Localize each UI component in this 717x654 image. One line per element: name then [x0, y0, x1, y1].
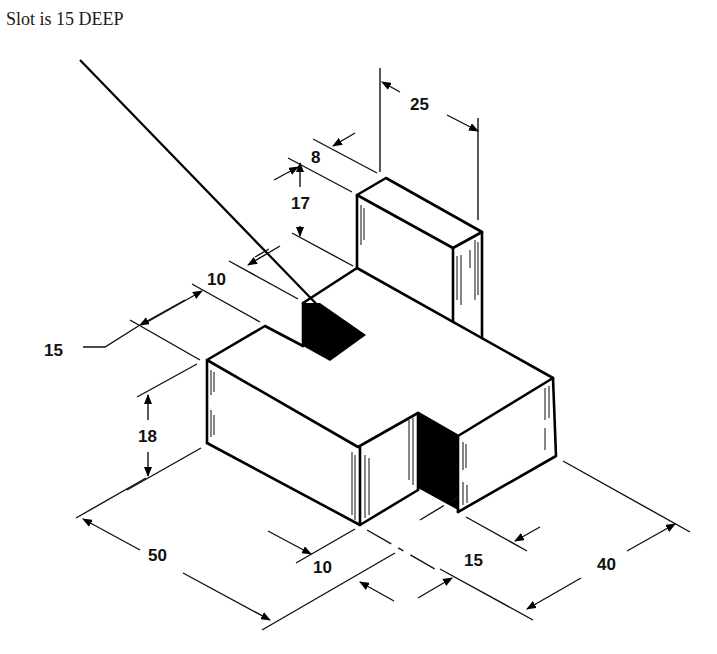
part-geometry: [207, 178, 556, 525]
isometric-drawing: Slot is 15 DEEP: [0, 0, 717, 654]
top-slot-shadow: [303, 303, 366, 361]
dim-step-depth: 15: [44, 341, 63, 360]
dim-slot-width-top: 10: [207, 270, 226, 289]
dim-base-depth: 40: [597, 555, 616, 574]
isometric-part-svg: 25 8 17 10 15 18 50 10 15 40: [0, 0, 717, 654]
dim-front-slot-width: 15: [464, 551, 483, 570]
dim-base-length: 50: [148, 546, 167, 565]
dim-upright-width: 25: [410, 95, 429, 114]
note-leader-line: [80, 60, 330, 318]
dim-base-height: 18: [138, 427, 157, 446]
dim-upright-thickness: 8: [311, 148, 320, 167]
dim-upright-height: 17: [291, 194, 310, 213]
front-slot-shadow: [418, 413, 458, 510]
dim-front-slot-offset: 10: [313, 558, 332, 577]
